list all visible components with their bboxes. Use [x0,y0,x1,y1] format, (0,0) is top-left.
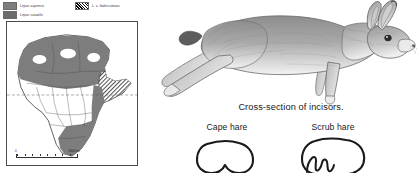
map-scalebar: 0 2000 km [16,154,78,158]
hare-eye-highlight [386,36,388,38]
incisor-label: Cape hare [177,122,277,132]
map-frame: 0 2000 km [6,21,138,166]
scalebar-zero-label: 0 [15,149,17,153]
cape-hare-incisor-icon [177,134,277,173]
scalebar-ticks [17,154,77,156]
hare-illustration [160,0,417,108]
distribution-map-panel: Lepus capensis Lepus saxatilis L. c. hab… [0,0,160,173]
legend-swatch-icon [3,11,17,19]
legend-item-label: Lepus capensis [20,4,44,8]
incisor-cross-section-panel: Cross-section of incisors. Cape hare Scr… [165,100,417,173]
hare-near-foreleg [326,62,340,100]
hare-tail [179,31,202,45]
legend-item-label: L. c. habessinicus [92,4,120,8]
incisor-group-scrub-hare: Scrub hare [283,122,383,173]
incisor-label: Scrub hare [283,122,383,132]
hare-eye [385,35,392,41]
legend-item-capensis: Lepus capensis [3,2,44,10]
legend-item-habessinicus: L. c. habessinicus [75,2,120,10]
scalebar-length-label: 2000 km [68,149,80,153]
legend-swatch-hatched-icon [75,2,89,10]
legend-column-left: Lepus capensis Lepus saxatilis [3,2,44,20]
legend-item-label: Lepus saxatilis [20,13,43,17]
incisor-group-cape-hare: Cape hare [177,122,277,173]
incisor-section-title: Cross-section of incisors. [165,102,417,112]
legend-item-saxatilis: Lepus saxatilis [3,11,44,19]
legend-column-right: L. c. habessinicus [75,2,120,11]
africa-distribution-map-icon [7,22,137,165]
hare-distribution-figure: Lepus capensis Lepus saxatilis L. c. hab… [0,0,417,173]
running-hare-icon [160,0,417,108]
legend-swatch-icon [3,2,17,10]
scrub-hare-incisor-icon [283,134,383,173]
scalebar-bar [16,154,78,158]
